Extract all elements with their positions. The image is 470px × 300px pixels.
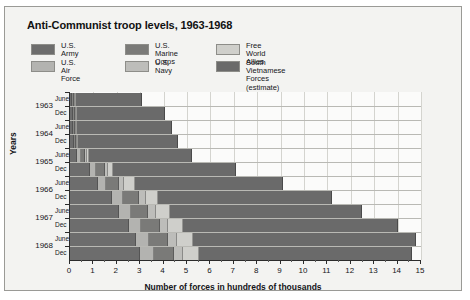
legend-label-us-army: U.S. Army: [61, 42, 79, 58]
y-axis-year-label: 1965: [19, 157, 53, 166]
bar-segment: [89, 149, 192, 162]
x-tick-label: 7: [223, 266, 243, 275]
x-tick-minor: [81, 260, 82, 262]
legend-swatch-us-army: [31, 44, 55, 55]
bar-segment: [70, 149, 77, 162]
bar-row: [70, 163, 236, 176]
legend-label-south-vietnamese-forces: South Vietnamese Forces (estimate): [246, 59, 285, 92]
bar-segment: [141, 219, 160, 232]
bar-segment: [106, 177, 119, 190]
x-tick-label: 15: [410, 266, 430, 275]
legend-label-us-navy: U.S. Navy: [155, 59, 172, 75]
x-tick: [186, 260, 187, 264]
x-tick: [92, 260, 93, 264]
bar-row: [70, 247, 412, 260]
bar-segment: [193, 233, 417, 246]
chart-figure: Anti-Communist troop levels, 1963-1968 U…: [4, 6, 462, 291]
bar-segment: [156, 205, 170, 218]
x-tick-label: 2: [106, 266, 126, 275]
x-tick-label: 6: [199, 266, 219, 275]
x-tick-minor: [268, 260, 269, 262]
x-tick-label: 10: [293, 266, 313, 275]
y-axis-year-label: 1963: [19, 101, 53, 110]
x-tick-minor: [128, 260, 129, 262]
bar-segment: [131, 205, 149, 218]
y-axis-year-label: 1967: [19, 213, 53, 222]
bar-segment: [124, 177, 135, 190]
bar-segment: [136, 233, 150, 246]
x-tick-label: 14: [387, 266, 407, 275]
x-tick: [397, 260, 398, 264]
bar-segment: [77, 107, 165, 120]
x-tick: [280, 260, 281, 264]
x-tick-minor: [315, 260, 316, 262]
plot-area: [69, 92, 421, 260]
x-tick-label: 8: [246, 266, 266, 275]
bar-row: [70, 121, 172, 134]
y-axis-year-label: 1968: [19, 241, 53, 250]
bar-segment: [70, 191, 112, 204]
bar-segment: [119, 205, 131, 218]
legend-label-us-air-force: U.S. Air Force: [61, 59, 80, 84]
bar-segment: [199, 247, 411, 260]
legend-swatch-us-navy: [125, 61, 149, 72]
x-tick-minor: [338, 260, 339, 262]
x-tick: [326, 260, 327, 264]
bar-segment: [135, 177, 283, 190]
x-tick-minor: [221, 260, 222, 262]
bar-row: [70, 93, 142, 106]
bar-segment: [70, 177, 98, 190]
x-gridline: [421, 92, 422, 260]
bar-segment: [146, 191, 159, 204]
x-tick-label: 11: [316, 266, 336, 275]
bar-segment: [129, 219, 142, 232]
x-tick-minor: [174, 260, 175, 262]
x-tick-label: 0: [59, 266, 79, 275]
x-tick: [116, 260, 117, 264]
bar-segment: [177, 233, 193, 246]
x-tick-minor: [291, 260, 292, 262]
x-axis-title: Number of forces in hundreds of thousand…: [5, 282, 461, 292]
bar-row: [70, 177, 283, 190]
bar-segment: [170, 205, 363, 218]
x-tick-minor: [408, 260, 409, 262]
x-tick-label: 4: [153, 266, 173, 275]
bar-segment: [154, 247, 174, 260]
bar-segment: [112, 191, 123, 204]
x-tick-label: 13: [363, 266, 383, 275]
bar-segment: [158, 191, 332, 204]
chart-title: Anti-Communist troop levels, 1963-1968: [27, 19, 232, 31]
bar-row: [70, 233, 416, 246]
bar-row: [70, 107, 165, 120]
x-tick: [420, 260, 421, 264]
bar-segment: [168, 233, 176, 246]
x-tick-minor: [362, 260, 363, 262]
x-tick-minor: [151, 260, 152, 262]
bar-segment: [76, 93, 142, 106]
chart-legend: U.S. Army U.S. Air Force U.S. Marine Cor…: [31, 43, 331, 83]
bar-segment: [70, 233, 136, 246]
x-tick: [256, 260, 257, 264]
legend-swatch-us-air-force: [31, 61, 55, 72]
x-tick: [139, 260, 140, 264]
x-tick-minor: [245, 260, 246, 262]
bar-row: [70, 191, 332, 204]
bar-segment: [148, 205, 155, 218]
bar-segment: [77, 121, 171, 134]
bar-row: [70, 219, 398, 232]
bar-segment: [123, 191, 139, 204]
bar-segment: [78, 135, 178, 148]
x-tick: [373, 260, 374, 264]
bar-segment: [70, 219, 129, 232]
bar-segment: [183, 247, 199, 260]
y-axis-year-label: 1966: [19, 185, 53, 194]
x-tick-label: 9: [270, 266, 290, 275]
x-tick-minor: [385, 260, 386, 262]
x-tick: [69, 260, 70, 264]
bar-row: [70, 135, 178, 148]
bar-segment: [70, 205, 119, 218]
x-tick: [233, 260, 234, 264]
x-tick: [350, 260, 351, 264]
bar-segment: [168, 219, 183, 232]
bar-segment: [70, 247, 140, 260]
